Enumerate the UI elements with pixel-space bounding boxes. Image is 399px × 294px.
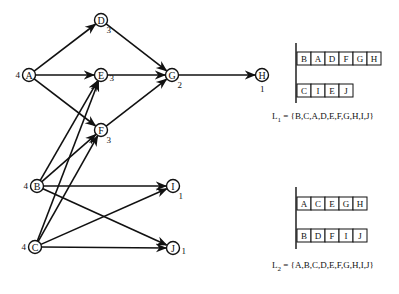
list-cell-label: B: [301, 231, 307, 241]
node-j: J1: [167, 242, 187, 257]
node-c: C4: [22, 241, 42, 254]
list-cell-label: J: [344, 86, 348, 96]
node-weight: 4: [22, 242, 27, 252]
node-f: F3: [95, 124, 112, 145]
dependency-graph-canvas: A4B4C4D3E3F3G2H1I1J1 BADFGHCIEJACEGHBDFI…: [0, 0, 399, 294]
node-g: G2: [166, 69, 183, 90]
node-weight: 1: [179, 191, 184, 201]
edge-d-g: [106, 24, 166, 71]
formula-set: = {A,B,C,D,E,F,G,H,I,J}: [281, 260, 374, 270]
list-cell-label: A: [315, 54, 322, 64]
node-weight: 4: [16, 70, 21, 80]
list-cell-label: D: [329, 54, 336, 64]
list-cell-label: A: [301, 199, 308, 209]
node-label: E: [98, 70, 104, 81]
list-cell-label: H: [357, 199, 364, 209]
list-cell-label: J: [358, 231, 362, 241]
list-cell-label: G: [343, 199, 350, 209]
node-i: I1: [167, 180, 184, 201]
node-weight: 1: [182, 246, 187, 256]
node-label: A: [25, 70, 33, 81]
edge-a-f: [34, 79, 95, 126]
node-label: H: [258, 70, 265, 81]
node-label: D: [97, 15, 104, 26]
list-l2: ACEGHBDFIJ: [296, 187, 367, 249]
node-weight: 3: [107, 25, 112, 35]
list-cell-label: H: [371, 54, 378, 64]
edge-c-f: [38, 136, 97, 241]
edge-b-e: [40, 81, 97, 180]
node-label: I: [171, 181, 174, 192]
adjacency-lists: BADFGHCIEJACEGHBDFIJ: [296, 43, 381, 249]
graph-edges: [34, 24, 255, 248]
node-a: A4: [16, 69, 36, 82]
edge-f-g: [106, 79, 166, 126]
node-h: H1: [256, 69, 269, 94]
list-cell-label: I: [317, 86, 320, 96]
list-cell-label: G: [357, 54, 364, 64]
formula-l2: L2 = {A,B,C,D,E,F,G,H,I,J}: [272, 260, 374, 273]
node-d: D3: [95, 14, 112, 35]
list-cell-label: C: [315, 199, 321, 209]
node-weight: 1: [260, 84, 265, 94]
list-cell-label: I: [345, 231, 348, 241]
graph-nodes: A4B4C4D3E3F3G2H1I1J1: [16, 14, 269, 257]
edge-c-j: [41, 247, 166, 248]
node-e: E3: [95, 69, 115, 84]
node-label: B: [34, 181, 41, 192]
node-weight: 3: [107, 135, 112, 145]
node-label: C: [32, 242, 39, 253]
node-weight: 4: [24, 181, 29, 191]
formula-l1: L1 = {B,C,A,D,E,F,G,H,I,J}: [272, 111, 374, 124]
node-label: G: [168, 70, 175, 81]
list-cell-label: F: [329, 231, 334, 241]
list-cell-label: F: [343, 54, 348, 64]
list-l1: BADFGHCIEJ: [296, 43, 381, 103]
node-weight: 2: [178, 80, 183, 90]
node-label: F: [98, 125, 104, 136]
node-b: B4: [24, 180, 44, 193]
list-cell-label: E: [329, 86, 335, 96]
node-weight: 3: [110, 73, 115, 83]
edge-a-d: [34, 24, 95, 71]
formula-set: = {B,C,A,D,E,F,G,H,I,J}: [281, 111, 374, 121]
list-cell-label: E: [329, 199, 335, 209]
list-cell-label: D: [315, 231, 322, 241]
list-cell-label: C: [301, 86, 307, 96]
list-cell-label: B: [301, 54, 307, 64]
node-label: J: [171, 243, 175, 254]
